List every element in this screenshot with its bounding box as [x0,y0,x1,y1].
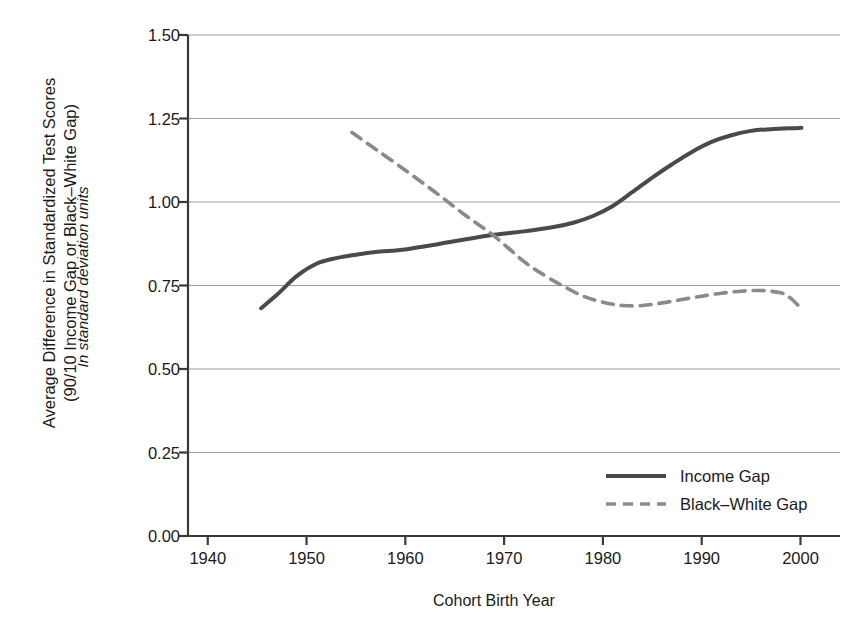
gridlines [188,35,840,453]
data-series [261,128,801,309]
chart-figure: Average Difference in Standardized Test … [0,0,865,633]
legend-label-black-white-gap: Black–White Gap [680,495,807,514]
x-tick-label: 1980 [568,549,638,568]
x-tick-label: 2000 [765,549,835,568]
legend-swatch-solid-line [604,467,668,485]
legend-label-income-gap: Income Gap [680,467,770,486]
x-tick-label: 1940 [173,549,243,568]
x-tick-label: 1970 [469,549,539,568]
legend-item-black-white-gap: Black–White Gap [604,490,807,518]
x-tick-label: 1960 [370,549,440,568]
legend-swatch-dashed-line [604,495,668,513]
plot-area [0,0,865,633]
x-tick-label: 1990 [667,549,737,568]
x-tick-label: 1950 [272,549,342,568]
legend-item-income-gap: Income Gap [604,462,807,490]
chart-legend: Income Gap Black–White Gap [604,462,807,518]
x-axis-title: Cohort Birth Year [188,592,800,610]
